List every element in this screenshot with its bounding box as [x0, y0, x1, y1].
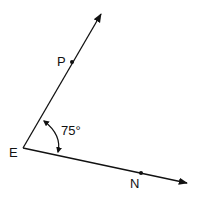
angle-diagram: E P N 75° [0, 0, 198, 198]
ray-en [23, 148, 187, 183]
label-point-p: P [57, 54, 66, 69]
point-p [70, 60, 74, 64]
angle-arc [44, 121, 59, 152]
point-n [139, 171, 143, 175]
label-vertex-e: E [9, 145, 18, 160]
label-angle: 75° [61, 123, 81, 138]
label-point-n: N [130, 176, 139, 191]
